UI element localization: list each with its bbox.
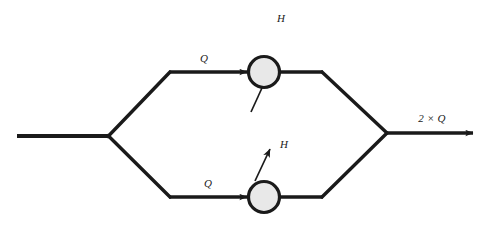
node-top-circle bbox=[249, 57, 280, 88]
node-bottom-circle bbox=[249, 182, 280, 213]
top-branch-group bbox=[108, 72, 387, 137]
label-outlet: 2 × Q bbox=[418, 112, 445, 124]
node-top bbox=[249, 57, 280, 88]
top-branch-riser bbox=[108, 72, 170, 137]
label-heat-top: H bbox=[276, 12, 286, 24]
label-inlet-branch-top: Q bbox=[200, 52, 208, 64]
flow-diagram-canvas: Q Q H H 2 × Q bbox=[0, 0, 487, 228]
node-bottom bbox=[249, 182, 280, 213]
heat-arrow-bottom-icon bbox=[255, 149, 270, 181]
bottom-branch-group bbox=[108, 133, 387, 197]
bottom-branch-downcomer bbox=[108, 136, 170, 198]
flow-diagram-svg: Q Q H H 2 × Q bbox=[0, 0, 487, 228]
top-branch-downcomer bbox=[322, 72, 387, 133]
bottom-branch-riser bbox=[322, 133, 387, 197]
label-heat-bottom: H bbox=[279, 138, 289, 150]
label-inlet-branch-bottom: Q bbox=[204, 177, 212, 189]
heat-arrow-bottom-group bbox=[255, 149, 270, 181]
